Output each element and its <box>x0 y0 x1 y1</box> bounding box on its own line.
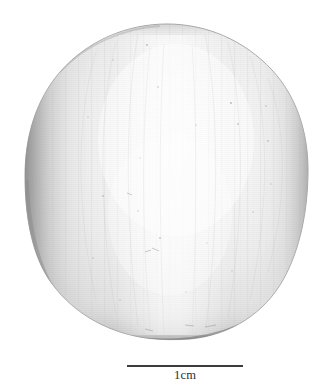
specimen-body <box>0 0 333 350</box>
scale-bar: 1cm <box>0 358 333 388</box>
specimen-shading <box>0 0 333 350</box>
highlight-blob-lower <box>108 135 232 295</box>
specimen-illustration <box>0 0 333 350</box>
figure-root: 1cm <box>0 0 333 388</box>
specimen-image <box>0 0 333 350</box>
scale-bar-label: 1cm <box>0 368 333 382</box>
